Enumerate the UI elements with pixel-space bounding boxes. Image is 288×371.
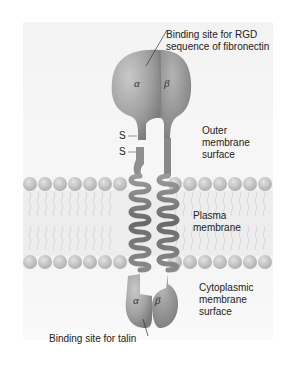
alpha-label-head: α: [134, 77, 140, 89]
alpha-label-tail: α: [133, 294, 139, 306]
cytoplasmic-surface-label-1: Cytoplasmic: [199, 282, 253, 294]
cytoplasmic-surface-label-3: surface: [199, 306, 232, 318]
plasma-membrane-label-2: membrane: [193, 222, 241, 234]
disulfide-s1: S: [119, 130, 126, 142]
integrin-diagram: [0, 0, 288, 371]
rgd-binding-label-1: Binding site for RGD: [166, 29, 257, 41]
outer-surface-label-3: surface: [202, 149, 235, 161]
plasma-membrane-label-1: Plasma: [193, 210, 226, 222]
cytoplasmic-surface-label-2: membrane: [199, 294, 247, 306]
talin-binding-label: Binding site for talin: [49, 333, 136, 345]
beta-label-tail: β: [155, 294, 160, 306]
outer-surface-label-2: membrane: [202, 137, 250, 149]
outer-surface-label-1: Outer: [202, 125, 227, 137]
integrin-head: [112, 50, 191, 140]
beta-stalk: [164, 138, 171, 176]
disulfide-s2: S: [119, 146, 126, 158]
beta-label-head: β: [164, 77, 169, 89]
rgd-binding-label-2: sequence of fibronectin: [166, 41, 269, 53]
alpha-stalk: [134, 147, 144, 176]
